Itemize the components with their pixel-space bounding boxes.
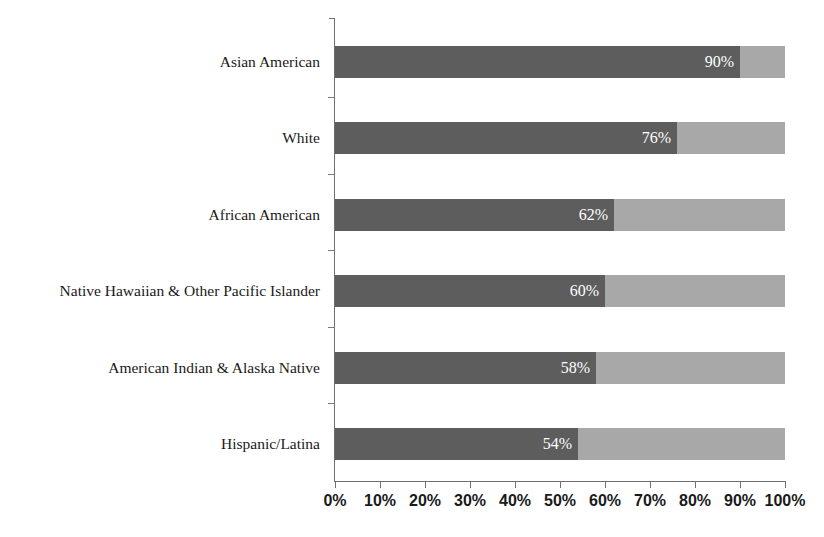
y-axis-tick: [328, 250, 335, 251]
x-axis-tick: [740, 481, 741, 488]
bar-value-label: 76%: [631, 122, 671, 154]
y-axis-tick: [328, 97, 335, 98]
y-axis-tick: [328, 174, 335, 175]
x-axis-tick: [470, 481, 471, 488]
bar-value-label: 54%: [532, 428, 572, 460]
x-axis-tick: [515, 481, 516, 488]
x-axis-tick-label: 90%: [724, 492, 756, 510]
x-axis-tick-label: 0%: [323, 492, 346, 510]
y-axis-tick: [328, 403, 335, 404]
x-axis-tick-label: 60%: [589, 492, 621, 510]
bar-value-label: 90%: [694, 46, 734, 78]
category-label-native-hawaiian-pacific-islander: Native Hawaiian & Other Pacific Islander: [60, 275, 320, 307]
x-axis-tick: [425, 481, 426, 488]
x-axis-tick-label: 100%: [765, 492, 806, 510]
horizontal-stacked-bar-chart: Asian American 90% White 76% African Ame…: [0, 0, 824, 537]
x-axis-tick: [335, 481, 336, 488]
category-label-hispanic-latina: Hispanic/Latina: [221, 428, 320, 460]
x-axis-tick-label: 70%: [634, 492, 666, 510]
bar-primary-segment: [335, 122, 677, 154]
x-axis-tick: [560, 481, 561, 488]
x-axis-tick: [380, 481, 381, 488]
bar-primary-segment: [335, 46, 740, 78]
bar-value-label: 58%: [550, 352, 590, 384]
x-axis-tick: [605, 481, 606, 488]
x-axis-tick-label: 30%: [454, 492, 486, 510]
x-axis-tick: [785, 481, 786, 488]
x-axis-tick-label: 50%: [544, 492, 576, 510]
bar-value-label: 60%: [559, 275, 599, 307]
y-axis-tick: [328, 327, 335, 328]
x-axis-tick: [695, 481, 696, 488]
category-label-white: White: [282, 122, 320, 154]
x-axis-tick-label: 40%: [499, 492, 531, 510]
category-label-asian-american: Asian American: [220, 46, 320, 78]
x-axis-tick: [650, 481, 651, 488]
x-axis-tick-label: 80%: [679, 492, 711, 510]
category-label-african-american: African American: [209, 199, 320, 231]
x-axis-tick-label: 20%: [409, 492, 441, 510]
category-label-american-indian-alaska-native: American Indian & Alaska Native: [108, 352, 320, 384]
x-axis-tick-label: 10%: [364, 492, 396, 510]
bar-value-label: 62%: [568, 199, 608, 231]
